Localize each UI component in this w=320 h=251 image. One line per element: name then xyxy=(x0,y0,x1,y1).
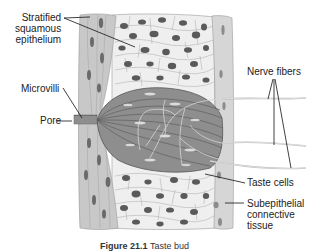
label-line: epithelium xyxy=(15,34,61,45)
label-line: Subepithelial xyxy=(247,198,304,209)
label-line: Stratified xyxy=(15,12,61,23)
label-pore: Pore xyxy=(40,115,61,126)
pore-microvilli xyxy=(74,115,97,124)
caption-text: Taste bud xyxy=(150,241,189,251)
label-line: connective xyxy=(247,209,304,220)
label-subepithelial-connective-tissue: Subepithelial connective tissue xyxy=(247,198,304,231)
label-stratified-squamous-epithelium: Stratified squamous epithelium xyxy=(15,12,61,45)
label-taste-cells: Taste cells xyxy=(247,177,294,188)
caption-figure-number: Figure 21.1 xyxy=(100,241,148,251)
label-line: tissue xyxy=(247,220,304,231)
label-microvilli: Microvilli xyxy=(21,83,59,94)
figure-caption: Figure 21.1 Taste bud xyxy=(100,241,189,251)
label-line: squamous xyxy=(15,23,61,34)
label-nerve-fibers: Nerve fibers xyxy=(247,66,301,77)
